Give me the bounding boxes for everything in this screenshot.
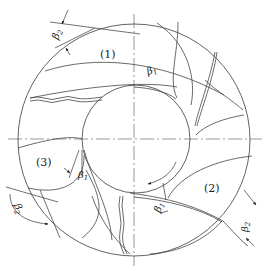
label-region-1: (1) bbox=[100, 48, 116, 61]
beta1-label-top: β1 bbox=[144, 63, 159, 79]
impeller-diagram: (1) (2) (3) β2 β1 β1 β2 β1 β2 bbox=[0, 0, 268, 271]
beta2-label-bottom-left: β2 bbox=[10, 201, 26, 217]
blade-group-3 bbox=[6, 138, 130, 254]
blade-group-2 bbox=[130, 156, 256, 254]
svg-text:β1: β1 bbox=[144, 63, 159, 79]
svg-text:β1: β1 bbox=[151, 200, 167, 215]
label-region-3: (3) bbox=[36, 156, 52, 169]
beta2-label-top-left: β2 bbox=[49, 27, 65, 43]
blade-group-right bbox=[195, 52, 244, 135]
svg-text:β2: β2 bbox=[239, 221, 252, 233]
rotation-direction-arrow bbox=[148, 162, 176, 184]
svg-text:β2: β2 bbox=[10, 201, 26, 217]
beta1-label-bottom: β1 bbox=[151, 200, 167, 215]
beta2-label-right: β2 bbox=[239, 221, 252, 233]
label-region-2: (2) bbox=[204, 182, 220, 195]
svg-text:β2: β2 bbox=[49, 27, 65, 43]
